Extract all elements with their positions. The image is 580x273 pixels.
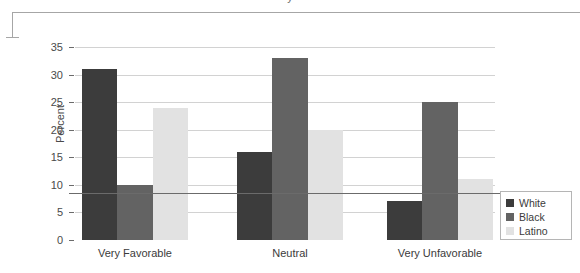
bar bbox=[237, 152, 272, 240]
y-tick-mark bbox=[69, 75, 74, 76]
y-tick-mark bbox=[69, 47, 74, 48]
x-category-label: Very Unfavorable bbox=[380, 247, 500, 259]
legend: White Black Latino bbox=[500, 191, 572, 240]
y-tick-label: 35 bbox=[23, 42, 63, 52]
frame-top-rule bbox=[12, 12, 580, 13]
bar bbox=[308, 130, 343, 240]
y-tick-mark bbox=[69, 157, 74, 158]
bar bbox=[82, 69, 117, 240]
bar bbox=[153, 108, 188, 240]
y-tick-label: 15 bbox=[23, 152, 63, 162]
y-tick-label: 0 bbox=[23, 235, 63, 245]
chart-screenshot: y Percent 05101520253035 Very FavorableN… bbox=[0, 0, 580, 273]
y-tick-label: 5 bbox=[23, 207, 63, 217]
bar bbox=[422, 102, 457, 240]
legend-swatch-black-icon bbox=[506, 213, 514, 221]
y-tick-label: 10 bbox=[23, 180, 63, 190]
bar bbox=[458, 179, 493, 240]
x-category-label: Neutral bbox=[230, 247, 350, 259]
y-tick-label: 30 bbox=[23, 70, 63, 80]
y-tick-mark bbox=[69, 102, 74, 103]
legend-swatch-white-icon bbox=[506, 199, 514, 207]
legend-item-black: Black bbox=[506, 210, 571, 224]
plot-area bbox=[75, 47, 495, 240]
legend-item-white: White bbox=[506, 196, 571, 210]
bar bbox=[387, 201, 422, 240]
y-tick-mark bbox=[69, 240, 74, 241]
y-tick-label: 25 bbox=[23, 97, 63, 107]
y-tick-mark bbox=[69, 212, 74, 213]
y-tick-label: 20 bbox=[23, 125, 63, 135]
legend-swatch-latino-icon bbox=[506, 227, 514, 235]
clipped-title-text: y bbox=[0, 0, 580, 3]
legend-item-latino: Latino bbox=[506, 224, 571, 238]
bar bbox=[272, 58, 307, 240]
legend-label-white: White bbox=[519, 197, 546, 209]
legend-label-black: Black bbox=[519, 211, 545, 223]
gridline bbox=[75, 47, 495, 48]
frame-left-stem bbox=[12, 12, 13, 38]
frame-left-foot bbox=[6, 37, 19, 38]
y-tick-mark bbox=[69, 130, 74, 131]
legend-label-latino: Latino bbox=[519, 225, 548, 237]
y-tick-mark bbox=[69, 185, 74, 186]
x-axis-baseline bbox=[69, 193, 501, 194]
x-category-label: Very Favorable bbox=[75, 247, 195, 259]
